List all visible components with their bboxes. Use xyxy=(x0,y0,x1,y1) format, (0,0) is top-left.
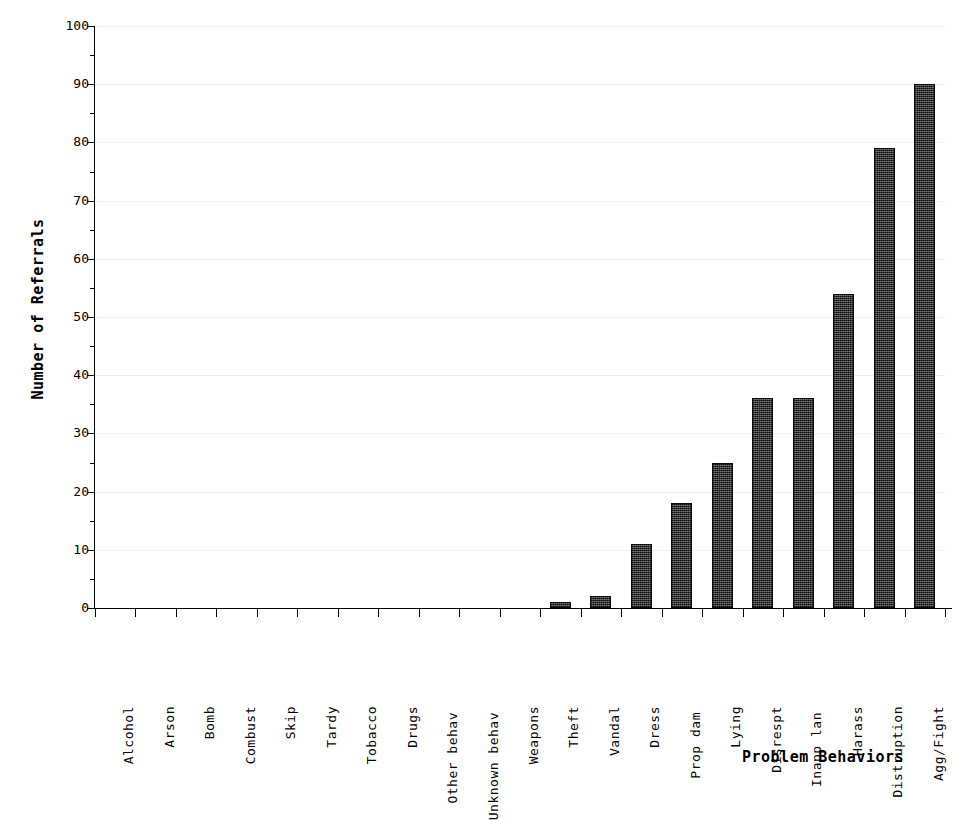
bar xyxy=(752,398,773,608)
y-tick-label: 70 xyxy=(45,193,89,208)
gridline xyxy=(95,259,945,260)
x-tick-label: Skip xyxy=(283,706,298,739)
bar xyxy=(631,544,652,608)
x-axis-line xyxy=(94,608,952,609)
y-tick-label: 80 xyxy=(45,134,89,149)
x-tick-label: Tardy xyxy=(324,706,339,748)
gridline xyxy=(95,550,945,551)
gridline xyxy=(95,492,945,493)
gridline xyxy=(95,433,945,434)
bar xyxy=(671,503,692,608)
plot-area xyxy=(95,26,945,608)
y-tick-label: 50 xyxy=(45,309,89,324)
x-tick-label: Arson xyxy=(162,706,177,748)
x-tick-label: Agg/Fight xyxy=(931,706,946,781)
x-tick-label: Vandal xyxy=(607,706,622,756)
y-tick-label: 100 xyxy=(45,18,89,33)
x-tick-label: Bomb xyxy=(202,706,217,739)
x-tick-label: Alcohol xyxy=(121,706,136,764)
gridline xyxy=(95,317,945,318)
x-tick-label: Other behav xyxy=(445,712,460,804)
bar xyxy=(914,84,935,608)
x-tick-label: Combust xyxy=(243,706,258,764)
gridline xyxy=(95,84,945,85)
gridline xyxy=(95,26,945,27)
bar xyxy=(833,294,854,608)
x-tick-label: Prop dam xyxy=(688,712,703,779)
x-tick-label: Unknown behav xyxy=(486,712,501,820)
y-tick-label: 10 xyxy=(45,542,89,557)
y-axis-tick-labels: 0102030405060708090100 xyxy=(41,26,89,609)
gridline xyxy=(95,375,945,376)
x-axis-tick-labels: AlcoholArsonBombCombustSkipTardyTobaccoD… xyxy=(95,616,953,766)
y-axis-line xyxy=(94,26,95,609)
bar xyxy=(874,148,895,608)
x-tick-label: Lying xyxy=(728,706,743,748)
x-tick-label: Dress xyxy=(647,706,662,748)
bar xyxy=(590,596,611,608)
x-tick-label: Weapons xyxy=(526,706,541,764)
bar xyxy=(793,398,814,608)
y-tick-label: 20 xyxy=(45,484,89,499)
gridline xyxy=(95,201,945,202)
x-tick-label: Theft xyxy=(566,706,581,748)
x-tick-label: Drugs xyxy=(405,706,420,748)
y-tick-label: 30 xyxy=(45,425,89,440)
gridline xyxy=(95,142,945,143)
x-tick-label: Tobacco xyxy=(364,706,379,764)
x-axis-title: Problem Behaviors xyxy=(742,748,904,766)
bar xyxy=(712,463,733,609)
y-tick-label: 60 xyxy=(45,251,89,266)
y-tick-label: 90 xyxy=(45,76,89,91)
y-tick-label: 0 xyxy=(45,600,89,615)
y-tick-label: 40 xyxy=(45,367,89,382)
